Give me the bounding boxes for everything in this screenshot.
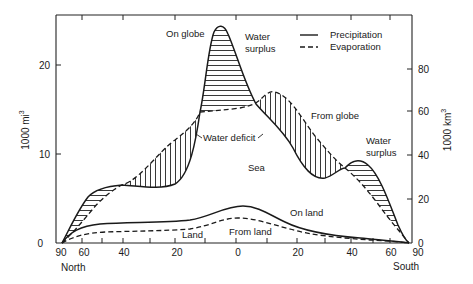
right-y-ticks: [407, 69, 412, 199]
legend: Precipitation Evaporation: [300, 29, 382, 52]
legend-evaporation-label: Evaporation: [330, 41, 381, 52]
from-globe-label: From globe: [311, 110, 359, 121]
x-tick-20n: 20: [171, 247, 183, 258]
x-tick-90s: 90: [412, 247, 424, 258]
water-deficit-north-hatch: [122, 112, 200, 187]
water-surplus-south-label-2: surplus: [366, 147, 397, 158]
land-label: Land: [182, 229, 203, 240]
x-tick-40n: 40: [118, 247, 130, 258]
y-left-tick-20: 20: [39, 60, 51, 71]
on-globe-label: On globe: [166, 28, 205, 39]
y-left-tick-10: 10: [39, 149, 51, 160]
y-left-title: 1000 mi3: [18, 110, 31, 150]
water-deficit-pointer-left: [196, 134, 202, 138]
svg-text:1000 km3: 1000 km3: [440, 109, 453, 151]
y-right-tick-40: 40: [418, 150, 430, 161]
x-tick-0: 0: [235, 247, 241, 258]
water-surplus-south-label-1: Water: [366, 135, 391, 146]
top-ticks: [82, 15, 390, 20]
left-y-ticks: [56, 65, 61, 154]
legend-precipitation-label: Precipitation: [330, 29, 382, 40]
x-tick-60n: 60: [78, 247, 90, 258]
y-right-tick-80: 80: [418, 64, 430, 75]
x-tick-40s: 40: [346, 247, 358, 258]
on-land-label: On land: [290, 207, 323, 218]
north-label: North: [61, 262, 85, 273]
y-right-tick-60: 60: [418, 106, 430, 117]
x-tick-20s: 20: [292, 247, 304, 258]
water-surplus-north-label-2: surplus: [245, 43, 276, 54]
south-label: South: [393, 261, 419, 272]
from-land-label: From land: [229, 226, 272, 237]
water-deficit-pointer-right: [258, 134, 263, 138]
water-deficit-label: Water deficit: [203, 132, 256, 143]
water-deficit-south-hatch: [256, 92, 345, 178]
x-tick-60s: 60: [385, 247, 397, 258]
bottom-ticks: [82, 238, 390, 243]
precipitation-land-curve: [62, 206, 409, 243]
x-tick-90n: 90: [55, 247, 67, 258]
svg-text:1000 mi3: 1000 mi3: [18, 110, 31, 150]
water-surplus-north-label-1: Water: [245, 31, 270, 42]
sea-label: Sea: [248, 162, 266, 173]
y-right-title: 1000 km3: [440, 109, 453, 151]
y-left-tick-0: 0: [37, 238, 43, 249]
water-balance-chart: Precipitation Evaporation On globe Water…: [0, 0, 473, 284]
y-right-tick-20: 20: [418, 194, 430, 205]
